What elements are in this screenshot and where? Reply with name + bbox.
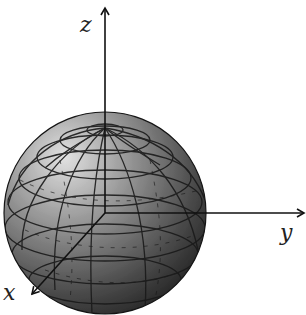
z-axis-label: z: [80, 14, 92, 36]
y-axis-label: y: [280, 222, 292, 244]
sphere-axes-diagram: [0, 0, 306, 315]
x-axis-label: x: [3, 282, 15, 304]
